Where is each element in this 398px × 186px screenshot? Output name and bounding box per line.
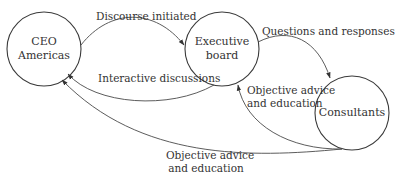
node-consultants-label: Consultants — [318, 106, 386, 120]
objective-advice-board-line1: Objective advice — [247, 84, 317, 97]
edge-label-interactive-discussions: Interactive discussions — [98, 72, 220, 85]
objective-advice-ceo-line2: and education — [166, 162, 246, 175]
node-ceo-americas-label: CEO Americas — [14, 35, 74, 63]
node-executive-board-label: Executive board — [188, 35, 256, 63]
edge-label-discourse-initiated: Discourse initiated — [96, 10, 197, 23]
ceo-label-line2: Americas — [14, 49, 74, 63]
board-label-line1: Executive — [188, 35, 256, 49]
consultants-label-line1: Consultants — [318, 106, 386, 120]
edge-label-objective-advice-board: Objective advice and education — [247, 84, 317, 110]
edge-label-objective-advice-ceo: Objective advice and education — [166, 149, 246, 175]
edge-label-questions-responses: Questions and responses — [262, 25, 395, 38]
ceo-label-line1: CEO — [14, 35, 74, 49]
edge-questions-responses-arrow — [258, 35, 330, 78]
board-label-line2: board — [188, 49, 256, 63]
objective-advice-ceo-line1: Objective advice — [166, 149, 246, 162]
objective-advice-board-line2: and education — [247, 97, 317, 110]
